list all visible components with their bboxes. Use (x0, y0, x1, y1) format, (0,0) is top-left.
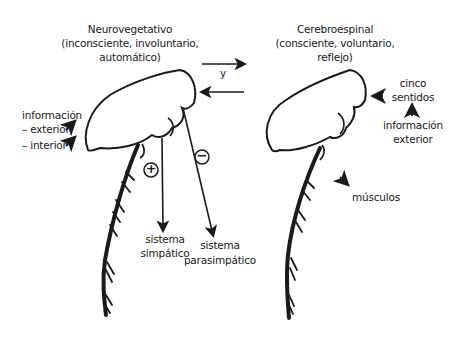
left-brain-icon (86, 70, 195, 158)
right-subtitle-2: reflejo) (270, 50, 400, 64)
parasympathetic-sign: − (196, 149, 208, 163)
parasympathetic-label-2: parasimpático (180, 253, 260, 267)
interior-arrow-icon (66, 138, 74, 146)
info-label-2: exterior (378, 132, 448, 146)
input-label: información (22, 108, 82, 122)
connector-label: y (215, 66, 231, 80)
muscles-label: músculos (343, 190, 409, 204)
senses-label-1: cinco (385, 76, 441, 90)
senses-label-2: sentidos (385, 90, 441, 104)
sympathetic-arrow-icon (162, 138, 163, 230)
right-brain-icon (267, 70, 366, 160)
sympathetic-sign: + (145, 162, 157, 176)
input-exterior: – exterior (22, 122, 70, 136)
info-label-1: información (378, 118, 448, 132)
parasympathetic-label-1: sistema (180, 238, 260, 252)
right-subtitle-1: (consciente, voluntario, (255, 36, 415, 50)
parasympathetic-arrow-icon (183, 108, 213, 235)
muscles-arrow-icon (340, 177, 347, 184)
right-spinal-cord-icon (287, 148, 320, 318)
left-spinal-cord-icon (103, 145, 138, 315)
left-subtitle-1: (inconsciente, involuntario, (35, 36, 225, 50)
right-title: Cerebroespinal (270, 22, 400, 36)
left-title: Neurovegetativo (60, 22, 200, 36)
input-interior: – interior (22, 138, 67, 152)
left-subtitle-2: automático) (60, 50, 200, 64)
